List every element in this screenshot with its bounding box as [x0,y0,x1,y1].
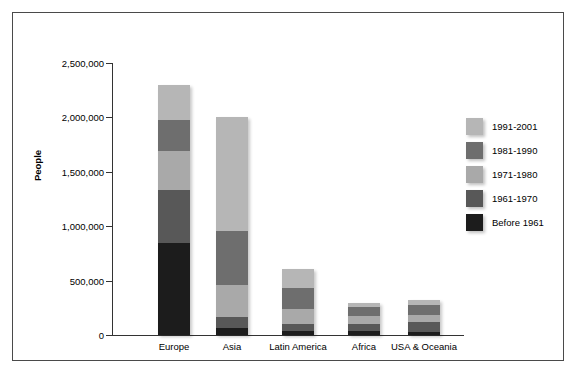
y-tick-label: 0 [36,330,104,341]
y-tick-label: 500,000 [36,275,104,286]
y-tick-label: 1,500,000 [36,166,104,177]
legend-label: 1991-2001 [492,121,537,132]
bar-segment [348,324,380,331]
legend-swatch [466,214,483,231]
bar-segment [216,285,248,317]
bar-segment [282,269,314,288]
y-tick-mark [106,281,112,282]
bar-segment [158,85,190,120]
y-tick-mark [106,335,112,336]
y-tick-label: 1,000,000 [36,221,104,232]
bar-segment [282,288,314,309]
y-tick-mark [106,226,112,227]
x-tick-label: Africa [352,341,376,352]
legend-swatch [466,118,483,135]
legend-item: 1971-1980 [466,162,570,186]
legend-label: 1981-1990 [492,145,537,156]
y-tick-mark [106,172,112,173]
figure-container: Source: Statistics Canada, 2001 Census. … [0,0,578,375]
stacked-bar [408,300,440,335]
bar-segment [216,117,248,231]
legend-label: Before 1961 [492,217,544,228]
stacked-bar [216,117,248,335]
legend-item: 1991-2001 [466,114,570,138]
bar-segment [216,231,248,285]
bar-segment [408,332,440,335]
legend-item: 1981-1990 [466,138,570,162]
legend-swatch [466,142,483,159]
legend-item: 1961-1970 [466,186,570,210]
legend-item: Before 1961 [466,210,570,234]
stacked-bar [348,303,380,335]
stacked-bar [282,269,314,335]
bar-segment [216,328,248,335]
y-tick-label: 2,500,000 [36,58,104,69]
legend-swatch [466,190,483,207]
bar-segment [348,331,380,335]
legend-label: 1971-1980 [492,169,537,180]
x-tick-label: Europe [159,341,190,352]
x-tick-label: USA & Oceania [391,341,457,352]
x-axis-line [112,335,464,336]
bar-segment [348,307,380,316]
y-tick-mark [106,117,112,118]
chart-legend: 1991-20011981-19901971-19801961-1970Befo… [466,114,570,234]
y-tick-mark [106,63,112,64]
legend-label: 1961-1970 [492,193,537,204]
bar-segment [158,190,190,243]
y-tick-label: 2,000,000 [36,112,104,123]
legend-swatch [466,166,483,183]
bar-segment [216,317,248,328]
bar-segment [158,151,190,190]
bar-segment [408,322,440,332]
bar-segment [282,331,314,335]
x-tick-label: Asia [223,341,241,352]
bar-segment [348,316,380,324]
bar-segment [158,243,190,335]
x-tick-label: Latin America [269,341,327,352]
bar-segment [282,309,314,324]
stacked-bar [158,85,190,335]
bar-segment [408,305,440,316]
bar-segment [158,120,190,151]
y-axis-line [112,63,113,336]
